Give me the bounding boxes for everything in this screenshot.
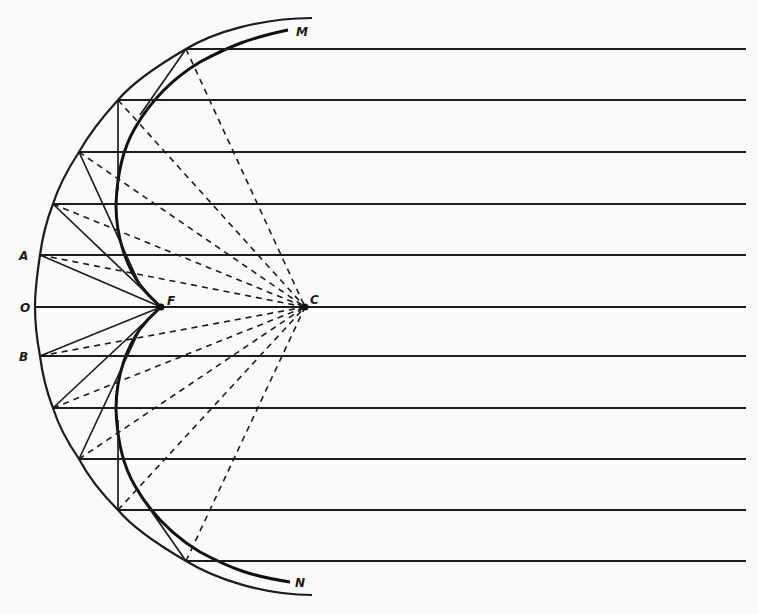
label-n: N [295, 576, 305, 590]
label-b: B [19, 350, 28, 364]
reflected-rays [40, 49, 186, 561]
label-m: M [296, 25, 308, 39]
label-a: A [18, 249, 28, 263]
label-c: C [310, 293, 319, 307]
label-f: F [167, 294, 176, 308]
spherical-mirror-caustic-diagram: M N A O B F C [0, 0, 758, 614]
focus-point [158, 304, 165, 311]
center-point [302, 304, 309, 311]
diagram-canvas: M N A O B F C [0, 0, 758, 614]
label-o: O [20, 301, 30, 315]
